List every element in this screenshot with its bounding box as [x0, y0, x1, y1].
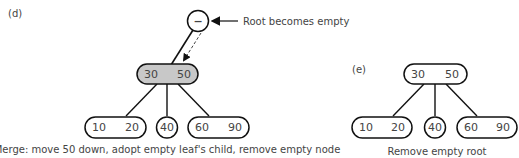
svg-text:90: 90 [228, 121, 242, 134]
svg-text:20: 20 [391, 121, 405, 134]
edge-root-internal [171, 30, 193, 65]
edge-root-leaf1 [393, 84, 424, 116]
svg-text:50: 50 [445, 68, 459, 81]
leaf-node: 60 90 [457, 117, 517, 138]
panel-d-label: (d) [8, 8, 22, 19]
leaf-node: 40 [157, 117, 178, 138]
svg-text:40: 40 [160, 121, 174, 134]
edge-internal-leaf1 [126, 84, 157, 116]
internal-node: 30 50 [137, 64, 198, 84]
panel-d: (d) − Root becomes empty 30 50 10 20 4 [0, 8, 349, 155]
root-node: 30 50 [404, 64, 467, 84]
svg-text:40: 40 [428, 121, 442, 134]
panel-d-caption: Merge: move 50 down, adopt empty leaf's … [0, 144, 340, 155]
svg-text:10: 10 [92, 121, 106, 134]
svg-text:10: 10 [359, 121, 373, 134]
leaf-node: 40 [425, 117, 446, 138]
empty-root-node: − [188, 11, 209, 32]
edge-internal-leaf3 [178, 84, 209, 116]
panel-e-caption: Remove empty root [387, 146, 486, 157]
svg-text:50: 50 [177, 68, 191, 81]
svg-text:90: 90 [496, 121, 510, 134]
svg-text:60: 60 [464, 121, 478, 134]
svg-text:20: 20 [125, 121, 139, 134]
move-down-arrow-icon [184, 33, 201, 60]
leaf-node: 10 20 [352, 117, 412, 138]
svg-text:60: 60 [195, 121, 209, 134]
edge-root-leaf3 [446, 84, 477, 116]
leaf-node: 60 90 [188, 117, 249, 138]
leaf-node: 10 20 [85, 117, 146, 138]
svg-text:30: 30 [144, 68, 158, 81]
panel-e: (e) 30 50 10 20 40 60 90 Remove empty ro… [352, 64, 517, 157]
svg-text:−: − [193, 15, 202, 28]
panel-e-label: (e) [352, 64, 366, 75]
tree-diagram: (d) − Root becomes empty 30 50 10 20 4 [0, 0, 519, 158]
root-annotation: Root becomes empty [243, 16, 349, 27]
svg-text:30: 30 [411, 68, 425, 81]
